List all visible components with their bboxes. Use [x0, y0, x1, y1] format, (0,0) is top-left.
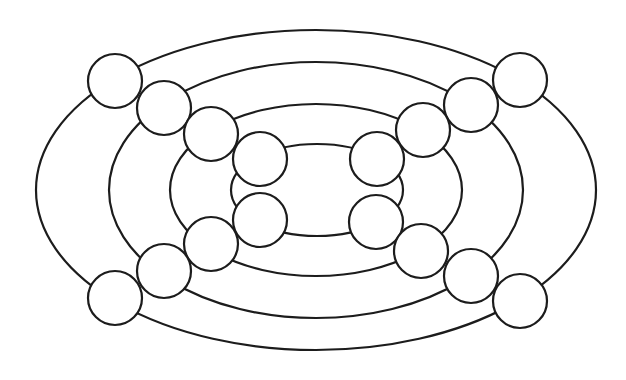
node-ring2-top-left	[137, 81, 191, 135]
node-ring4-bottom-left	[233, 193, 287, 247]
concentric-ring-diagram	[0, 0, 626, 380]
nodes-layer	[88, 53, 547, 328]
node-ring4-top-left	[233, 132, 287, 186]
node-ring2-bottom-right	[444, 249, 498, 303]
node-ring4-top-right	[350, 132, 404, 186]
node-ring2-bottom-left	[137, 244, 191, 298]
node-ring1-top-left	[88, 54, 142, 108]
node-ring3-top-right	[396, 103, 450, 157]
node-ring3-top-left	[184, 107, 238, 161]
node-ring1-bottom-right	[493, 274, 547, 328]
node-ring2-top-right	[444, 78, 498, 132]
node-ring3-bottom-right	[394, 224, 448, 278]
node-ring3-bottom-left	[184, 217, 238, 271]
node-ring1-top-right	[493, 53, 547, 107]
node-ring1-bottom-left	[88, 271, 142, 325]
